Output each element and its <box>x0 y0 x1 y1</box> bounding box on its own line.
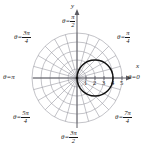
origin-point <box>76 77 79 80</box>
angle-label-5pi-over-4-fraction: 5π4 <box>21 110 30 125</box>
angle-label-3pi-over-4-fraction: 3π4 <box>22 30 31 45</box>
angle-label-pi-value: π <box>11 74 15 81</box>
angle-label-pi-over-4: θ=π4 <box>117 30 130 45</box>
angle-label-3pi-over-2: θ=3π2 <box>61 130 78 145</box>
angle-label-7pi-over-4-fraction: 7π4 <box>123 110 132 125</box>
angle-label-pi-over-2-fraction: π2 <box>70 14 75 29</box>
x-tick-label-2: 2 <box>93 80 96 87</box>
x-tick-label-5: 5 <box>120 80 123 87</box>
angle-label-pi-over-2: θ=π2 <box>62 14 75 29</box>
polar-plot-figure: 1 2 3 4 5 y x θ=0 θ=π4 θ=π2 θ=3π4 θ=π θ=… <box>0 0 156 152</box>
angle-label-pi-over-2-denominator: 2 <box>70 22 75 29</box>
angle-label-3pi-over-4: θ=3π4 <box>14 30 31 45</box>
x-tick-label-4: 4 <box>111 80 114 87</box>
angle-label-7pi-over-4: θ=7π4 <box>115 110 132 125</box>
angle-label-0: θ=0 <box>128 74 140 81</box>
angle-label-3pi-over-2-fraction: 3π2 <box>69 130 78 145</box>
angle-label-5pi-over-4: θ=5π4 <box>13 110 30 125</box>
y-axis-label: y <box>71 3 74 10</box>
angle-label-5pi-over-4-denominator: 4 <box>21 118 30 125</box>
angle-label-7pi-over-4-denominator: 4 <box>123 118 132 125</box>
angle-label-0-value: 0 <box>136 74 140 81</box>
x-axis-label: x <box>136 63 139 70</box>
x-tick-label-3: 3 <box>102 80 105 87</box>
angle-label-3pi-over-4-denominator: 4 <box>22 38 31 45</box>
x-tick-label-1: 1 <box>84 80 87 87</box>
angle-label-pi: θ=π <box>3 74 15 81</box>
angle-label-3pi-over-2-denominator: 2 <box>69 138 78 145</box>
angle-label-pi-over-4-denominator: 4 <box>125 38 130 45</box>
angle-label-pi-over-4-fraction: π4 <box>125 30 130 45</box>
